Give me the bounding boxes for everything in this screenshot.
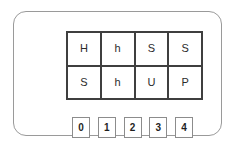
grid-cell-label: S [80,77,87,88]
grid-cell-label: P [181,77,188,88]
grid-cell-label: h [115,43,121,54]
grid-cell-r1c0[interactable]: S [68,67,102,101]
grid-cell-r0c3[interactable]: S [169,33,203,67]
grid-cell-label: H [80,43,88,54]
number-box-label: 1 [104,123,110,133]
number-box-3[interactable]: 3 [149,117,167,138]
grid-cell-r1c1[interactable]: h [102,67,136,101]
grid-cell-r0c1[interactable]: h [102,33,136,67]
outer-panel: H h S S S h U P 0 1 2 3 4 [13,11,222,136]
diagram-canvas: H h S S S h U P 0 1 2 3 4 [0,0,237,148]
grid-cell-r0c0[interactable]: H [68,33,102,67]
grid-cell-r1c2[interactable]: U [136,67,170,101]
number-box-4[interactable]: 4 [175,117,193,138]
number-box-0[interactable]: 0 [72,117,90,138]
letter-grid: H h S S S h U P [66,31,203,100]
number-box-label: 0 [78,123,84,133]
number-box-label: 4 [181,123,187,133]
grid-cell-label: S [181,43,188,54]
grid-cell-r0c2[interactable]: S [136,33,170,67]
grid-cell-label: U [147,77,155,88]
number-box-2[interactable]: 2 [124,117,142,138]
number-box-label: 2 [130,123,136,133]
number-row: 0 1 2 3 4 [72,117,193,138]
grid-cell-r1c3[interactable]: P [169,67,203,101]
grid-cell-label: h [115,77,121,88]
grid-cell-label: S [148,43,155,54]
number-box-label: 3 [155,123,161,133]
number-box-1[interactable]: 1 [98,117,116,138]
